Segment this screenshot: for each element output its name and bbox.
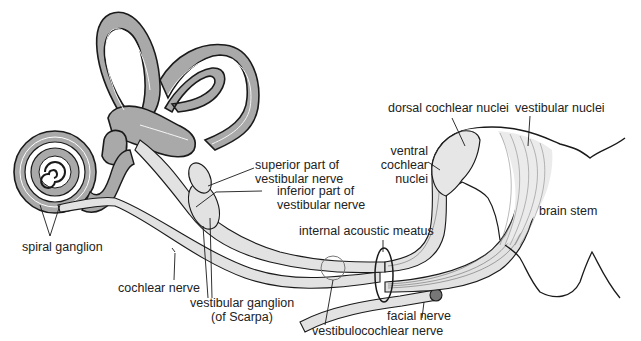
label-internal-acoustic-meatus: internal acoustic meatus xyxy=(299,224,434,238)
label-vestibular-ganglion: vestibular ganglion (of Scarpa) xyxy=(190,296,294,324)
semicircular-canals xyxy=(97,12,259,164)
label-ventral-cochlear-nuclei: ventral cochlear nuclei xyxy=(380,144,428,186)
label-inferior-vestibular-nerve: inferior part of vestibular nerve xyxy=(277,184,365,212)
label-vestibular-nuclei: vestibular nuclei xyxy=(515,101,605,115)
label-facial-nerve: facial nerve xyxy=(387,309,451,323)
label-superior-vestibular-nerve: superior part of vestibular nerve xyxy=(255,158,343,186)
label-vestibulocochlear-nerve: vestibulocochlear nerve xyxy=(312,324,443,338)
label-cochlear-nerve: cochlear nerve xyxy=(118,281,200,295)
label-spiral-ganglion: spiral ganglion xyxy=(22,240,103,254)
label-dorsal-cochlear-nuclei: dorsal cochlear nuclei xyxy=(388,101,509,115)
label-brain-stem: brain stem xyxy=(539,204,597,218)
